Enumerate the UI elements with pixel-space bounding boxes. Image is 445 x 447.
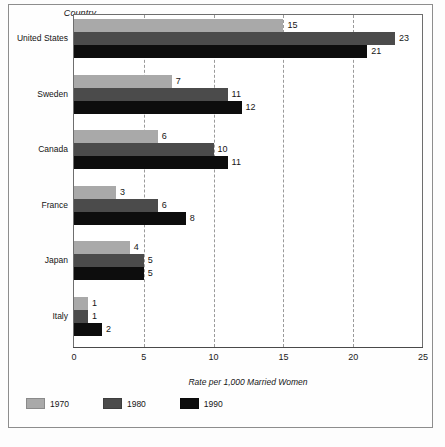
x-tick-label-5: 5 (141, 352, 146, 362)
bar (74, 199, 158, 212)
x-tick-label-20: 20 (348, 352, 358, 362)
bar-value-label: 1 (92, 310, 97, 323)
bar-value-label: 1 (92, 297, 97, 310)
bar (74, 310, 88, 323)
category-label-sweden: Sweden (6, 89, 68, 99)
legend-swatch-icon-1970 (26, 398, 45, 409)
x-tick-label-10: 10 (209, 352, 219, 362)
bar (74, 143, 214, 156)
bar-value-label: 11 (232, 156, 241, 169)
bar-value-label: 6 (162, 199, 167, 212)
legend: 197019801990 (26, 398, 223, 409)
bar (74, 19, 283, 32)
bar (74, 101, 242, 114)
bar-value-label: 11 (232, 88, 241, 101)
category-label-italy: Italy (6, 311, 68, 321)
bar (74, 241, 130, 254)
bar (74, 130, 158, 143)
category-label-united-states: United States (6, 33, 68, 43)
bar-value-label: 4 (134, 241, 139, 254)
bar-value-label: 5 (148, 267, 153, 280)
page: Country 1523217111261011368455112 United… (0, 0, 445, 447)
legend-item-1970[interactable]: 1970 (26, 398, 69, 409)
legend-swatch-icon-1990 (180, 398, 199, 409)
legend-swatch-icon-1980 (103, 398, 122, 409)
category-label-japan: Japan (6, 255, 68, 265)
gridline-5 (144, 15, 145, 347)
bar (74, 88, 228, 101)
x-tick-label-0: 0 (71, 352, 76, 362)
category-label-france: France (6, 200, 68, 210)
bar (74, 267, 144, 280)
legend-item-1980[interactable]: 1980 (103, 398, 146, 409)
bar-value-label: 10 (218, 143, 228, 156)
bar-chart-figure: Country 1523217111261011368455112 United… (0, 0, 445, 447)
bar (74, 212, 186, 225)
bar (74, 32, 395, 45)
bar-value-label: 12 (246, 101, 256, 114)
bar-value-label: 23 (399, 32, 409, 45)
legend-item-1990[interactable]: 1990 (180, 398, 223, 409)
gridline-10 (214, 15, 215, 347)
bar-value-label: 7 (176, 75, 181, 88)
bar (74, 75, 172, 88)
bar-value-label: 21 (371, 45, 381, 58)
gridline-15 (283, 15, 284, 347)
x-axis-title: Rate per 1,000 Married Women (73, 377, 423, 387)
bar (74, 297, 88, 310)
gridline-20 (353, 15, 354, 347)
x-tick-label-15: 15 (278, 352, 288, 362)
bar-value-label: 6 (162, 130, 167, 143)
bar (74, 45, 367, 58)
bar-value-label: 3 (120, 186, 125, 199)
bar-value-label: 15 (287, 19, 297, 32)
plot-area (73, 14, 423, 348)
legend-label-1970: 1970 (50, 399, 69, 409)
x-tick-label-25: 25 (418, 352, 428, 362)
legend-label-1990: 1990 (204, 399, 223, 409)
bar-value-label: 5 (148, 254, 153, 267)
bar (74, 254, 144, 267)
bar (74, 186, 116, 199)
bar (74, 323, 102, 336)
bar (74, 156, 228, 169)
legend-label-1980: 1980 (127, 399, 146, 409)
x-axis-line (73, 347, 423, 348)
bar-value-label: 8 (190, 212, 195, 225)
category-label-canada: Canada (6, 144, 68, 154)
bar-value-label: 2 (106, 323, 111, 336)
